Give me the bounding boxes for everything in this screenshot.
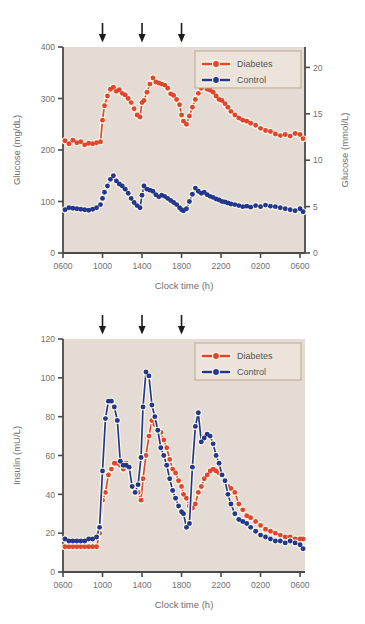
insulin-chart-panel: 0204060801001200600100014001800220002000…	[0, 300, 365, 624]
data-point	[278, 133, 283, 138]
data-point	[138, 205, 143, 210]
data-point	[170, 488, 175, 493]
data-point	[100, 118, 105, 123]
legend-swatch-marker	[213, 353, 219, 359]
x-axis-tick-label: 1800	[172, 261, 191, 271]
data-point	[187, 114, 192, 119]
x-axis-tick-label: 1400	[132, 261, 151, 271]
data-point	[97, 525, 102, 530]
y-axis-tick-label-right: 20	[313, 63, 323, 73]
data-point	[226, 105, 231, 110]
data-point	[293, 540, 298, 545]
data-point	[258, 533, 263, 538]
x-axis-title: Clock time (h)	[155, 280, 214, 291]
data-point	[293, 131, 298, 136]
x-axis-tick-label: 1400	[132, 580, 151, 590]
data-point	[273, 132, 278, 137]
y-axis-tick-label-left: 80	[45, 412, 55, 422]
data-point	[253, 203, 258, 208]
data-point	[283, 206, 288, 211]
data-point	[103, 490, 108, 495]
data-point	[176, 478, 181, 483]
x-axis-tick-label: 2200	[211, 580, 230, 590]
data-point	[232, 490, 237, 495]
y-axis-tick-label-right: 10	[313, 155, 323, 165]
data-point	[278, 533, 283, 538]
meal-arrow-icon	[99, 23, 106, 43]
y-axis-tick-label-left: 20	[45, 528, 55, 538]
legend-swatch-marker	[213, 61, 219, 67]
arrow-head	[138, 326, 145, 335]
data-point	[146, 434, 151, 439]
data-point	[127, 465, 132, 470]
data-point	[126, 191, 131, 196]
data-point	[226, 492, 231, 497]
legend-label-control: Control	[237, 75, 266, 85]
data-point	[94, 535, 99, 540]
legend-swatch-marker	[213, 77, 219, 83]
data-point	[190, 192, 195, 197]
data-point	[288, 207, 293, 212]
data-point	[214, 453, 219, 458]
data-point	[171, 93, 176, 98]
data-point	[278, 538, 283, 543]
data-point	[66, 141, 71, 146]
y-axis-tick-label-left: 100	[41, 373, 56, 383]
data-point	[167, 476, 172, 481]
data-point	[174, 97, 179, 102]
data-point	[258, 204, 263, 209]
y-axis-title-left: Glucose (mg/dL)	[11, 115, 22, 185]
data-point	[173, 471, 178, 476]
data-point	[268, 537, 273, 542]
data-point	[248, 205, 253, 210]
data-point	[268, 529, 273, 534]
data-point	[100, 196, 105, 201]
data-point	[145, 90, 150, 95]
data-point	[139, 498, 144, 503]
data-point	[98, 139, 103, 144]
legend-label-control: Control	[237, 367, 266, 377]
data-point	[263, 535, 268, 540]
data-point	[232, 113, 237, 118]
data-point	[184, 206, 189, 211]
glucose-chart-panel: 0100200300400051015200600100014001800220…	[0, 0, 365, 312]
data-point	[115, 418, 120, 423]
data-point	[298, 542, 303, 547]
legend-swatch-marker	[213, 369, 219, 375]
y-axis-tick-label-left: 0	[50, 567, 55, 577]
y-axis-tick-label-left: 120	[41, 334, 56, 344]
y-axis-title-left: Insulin (mU/L)	[11, 426, 22, 485]
data-point	[179, 484, 184, 489]
y-axis-title-right: Glucose (mmol/L)	[339, 113, 350, 188]
arrow-head	[99, 326, 106, 335]
data-point	[253, 529, 258, 534]
data-point	[129, 100, 134, 105]
data-point	[184, 496, 189, 501]
data-point	[184, 525, 189, 530]
glucose-chart-svg: 0100200300400051015200600100014001800220…	[0, 0, 365, 312]
data-point	[144, 370, 149, 375]
data-point	[165, 86, 170, 91]
x-axis-tick-label: 0600	[290, 261, 309, 271]
data-point	[220, 472, 225, 477]
data-point	[283, 132, 288, 137]
data-point	[263, 527, 268, 532]
data-point	[258, 523, 263, 528]
data-point	[103, 416, 108, 421]
data-point	[177, 102, 182, 107]
data-point	[268, 204, 273, 209]
y-axis-tick-label-left: 200	[41, 145, 56, 155]
data-point	[164, 463, 169, 468]
data-point	[202, 476, 207, 481]
data-point	[63, 138, 68, 143]
data-point	[199, 484, 204, 489]
data-point	[273, 204, 278, 209]
insulin-chart-svg: 0204060801001200600100014001800220002000…	[0, 300, 365, 624]
meal-arrow-icon	[138, 315, 145, 335]
data-point	[100, 469, 105, 474]
data-point	[150, 75, 155, 80]
data-point	[193, 97, 198, 102]
meal-arrow-group	[99, 315, 185, 335]
x-axis-tick-label: 0600	[290, 580, 309, 590]
data-point	[288, 538, 293, 543]
